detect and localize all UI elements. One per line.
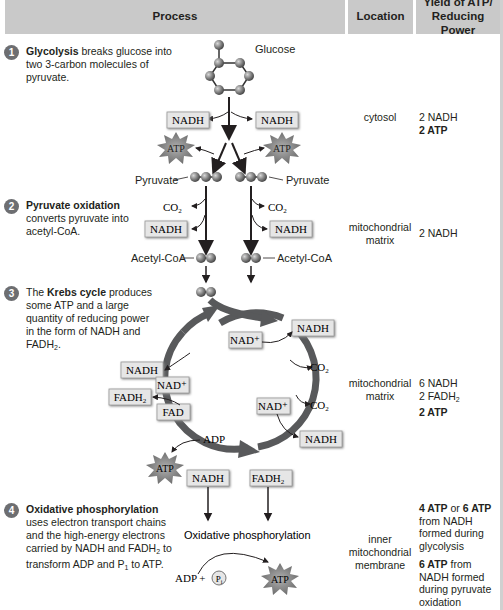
- glycolysis-nadh-left: NADH: [172, 114, 204, 126]
- krebs-adp: ADP: [203, 433, 225, 445]
- co2-left: CO2: [163, 201, 182, 215]
- acetyl-coa-left: [196, 253, 216, 263]
- step-pyruvate-oxidation: 2 Pyruvate oxidation converts pyruvate i…: [4, 199, 154, 238]
- location-krebs-cycle: mitochondrialmatrix: [345, 377, 415, 403]
- step-number-4: 4: [4, 503, 19, 518]
- pyruvate-left: [190, 172, 222, 182]
- glycolysis-nadh-right: NADH: [261, 114, 293, 126]
- location-glycolysis: cytosol: [345, 111, 415, 124]
- krebs-co2-2: CO2: [310, 399, 329, 413]
- krebs-nadh-1: NADH: [297, 322, 329, 334]
- krebs-nadh-2: NADH: [126, 364, 158, 376]
- yield-glycolysis: 2 NADH 2 ATP: [419, 111, 503, 136]
- yield-oxphos-pyruvate: 6 ATP from NADH formed during pyruvate o…: [419, 558, 501, 608]
- yield-pyruvate-oxidation: 2 NADH: [419, 227, 503, 240]
- glucose-label: Glucose: [255, 43, 295, 55]
- oxphos-label: Oxidative phosphorylation: [184, 529, 311, 541]
- pyruvate-right-label: Pyruvate: [286, 174, 329, 186]
- step-1-title: Glycolysis: [26, 45, 79, 57]
- glucose-molecule: [205, 40, 254, 95]
- acetyl-coa-right: [241, 253, 261, 263]
- oxphos-atp-label: ATP: [271, 574, 289, 585]
- krebs-fad: FAD: [162, 406, 183, 418]
- co2-right: CO2: [268, 201, 287, 215]
- atp-right-label: ATP: [273, 143, 291, 154]
- pyruvate-right: [235, 172, 267, 182]
- yield-krebs-fadh2: 2 FADH2: [419, 390, 503, 407]
- krebs-nad-plus-3: NAD⁺: [258, 400, 288, 412]
- step-krebs-cycle: 3 The Krebs cycle produces some ATP and …: [4, 286, 154, 354]
- location-pyruvate-oxidation: mitochondrialmatrix: [345, 221, 415, 247]
- pyruvate-nadh-right: NADH: [275, 223, 307, 235]
- step-4-end: to ATP.: [128, 558, 163, 570]
- yield-glycolysis-nadh: 2 NADH: [419, 111, 503, 124]
- oxphos-fadh2: FADH2: [252, 472, 285, 486]
- oxphos-nadh: NADH: [192, 472, 224, 484]
- krebs-nad-plus-1: NAD⁺: [230, 334, 260, 346]
- yield-oxphos-glycolysis: 4 ATP or 6 ATP from NADH formed during g…: [419, 502, 501, 552]
- step-3-title: Krebs cycle: [47, 286, 106, 298]
- location-oxidative-phosphorylation: innermitochondrialmembrane: [345, 533, 415, 572]
- krebs-nadh-3: NADH: [305, 433, 337, 445]
- step-number-3: 3: [4, 286, 19, 301]
- pyruvate-nadh-left: NADH: [150, 223, 182, 235]
- step-glycolysis: 1 Glycolysis breaks glucose into two 3-c…: [4, 45, 179, 84]
- step-4-title: Oxidative phosphorylation: [26, 503, 158, 515]
- adp-plus-label: ADP +: [175, 572, 206, 584]
- step-2-title: Pyruvate oxidation: [26, 199, 120, 211]
- yield-glycolysis-atp: 2 ATP: [419, 124, 503, 137]
- krebs-nad-plus-2: NAD⁺: [157, 379, 187, 391]
- yield-krebs-nadh: 6 NADH: [419, 377, 503, 390]
- krebs-fadh2: FADH2: [114, 391, 147, 405]
- yield-krebs-atp: 2 ATP: [419, 406, 503, 419]
- pyruvate-left-label: Pyruvate: [135, 174, 178, 186]
- step-4-description: uses electron transport chains and the h…: [26, 516, 166, 554]
- acetyl-entering-cycle: [196, 287, 216, 297]
- yield-oxidative-phosphorylation: 4 ATP or 6 ATP from NADH formed during g…: [419, 502, 501, 610]
- step-number-1: 1: [4, 45, 19, 60]
- step-oxidative-phosphorylation: 4 Oxidative phosphorylation uses electro…: [4, 503, 179, 574]
- step-3-end: .: [58, 338, 61, 350]
- atp-left-label: ATP: [167, 143, 185, 154]
- yield-krebs-cycle: 6 NADH 2 FADH2 2 ATP: [419, 377, 503, 419]
- acetyl-coa-right-label: Acetyl-CoA: [277, 252, 333, 264]
- step-2-description: converts pyruvate into acetyl-CoA.: [26, 212, 129, 237]
- step-number-2: 2: [4, 199, 19, 214]
- step-3-pre: The: [26, 286, 47, 298]
- krebs-co2-1: CO2: [310, 361, 329, 375]
- acetyl-coa-left-label: Acetyl-CoA: [131, 252, 187, 264]
- krebs-atp-label: ATP: [156, 463, 174, 474]
